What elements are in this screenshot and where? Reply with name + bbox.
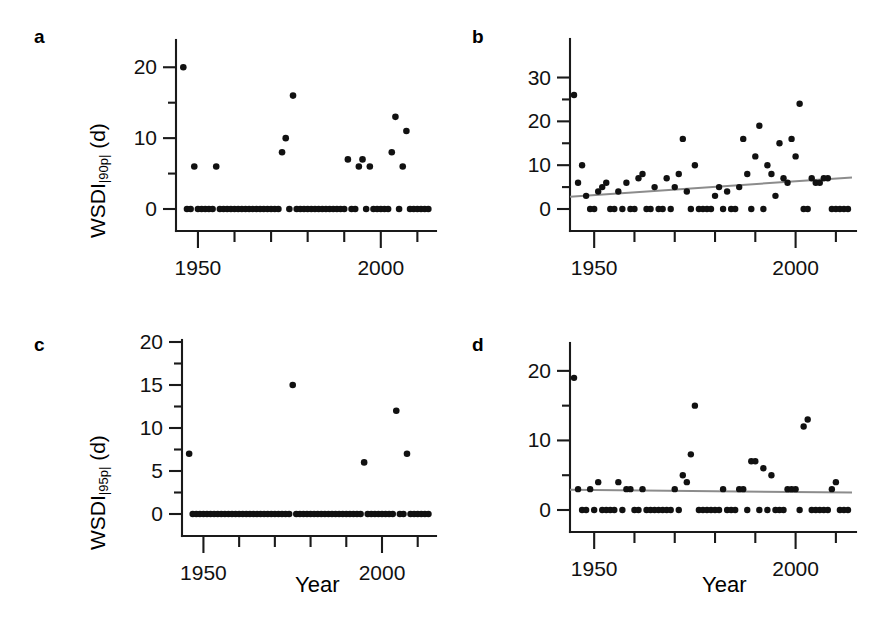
data-point [724, 188, 730, 194]
data-point [635, 507, 641, 513]
data-point [180, 64, 187, 71]
data-point [393, 408, 400, 415]
data-point [788, 136, 794, 142]
data-point [688, 206, 694, 212]
data-point [760, 465, 766, 471]
data-point [619, 206, 625, 212]
data-point [575, 486, 581, 492]
data-point [732, 206, 738, 212]
data-point [425, 206, 432, 213]
data-point [571, 375, 577, 381]
data-point [575, 180, 581, 186]
data-point [615, 188, 621, 194]
x-tick-label-a-2000: 2000 [357, 256, 404, 279]
trendline-d [570, 490, 852, 493]
data-point [579, 162, 585, 168]
data-point [800, 423, 806, 429]
data-point [748, 206, 754, 212]
data-point [396, 206, 403, 213]
data-point [829, 486, 835, 492]
data-point [286, 206, 293, 213]
data-point [619, 507, 625, 513]
data-point [668, 507, 674, 513]
data-point [756, 507, 762, 513]
data-point [389, 511, 396, 518]
panel-d-label: d [472, 335, 484, 354]
data-point [352, 206, 359, 213]
y-tick-label-c-15: 15 [140, 373, 163, 396]
data-point [663, 175, 669, 181]
data-point [356, 163, 363, 170]
y-tick-label-d-20: 20 [528, 359, 551, 382]
data-point [720, 206, 726, 212]
data-point [764, 162, 770, 168]
data-point [688, 451, 694, 457]
data-point [275, 206, 282, 213]
data-point [712, 193, 718, 199]
data-point [388, 149, 395, 156]
data-point [623, 180, 629, 186]
panel-d: d 0102019502000 Year [440, 310, 869, 643]
data-point [744, 507, 750, 513]
y-tick-label-b-0: 0 [539, 197, 551, 220]
data-point [647, 206, 653, 212]
data-point [845, 206, 851, 212]
data-point [804, 206, 810, 212]
data-point [399, 163, 406, 170]
y-tick-label-c-20: 20 [140, 330, 163, 353]
data-point [392, 114, 399, 121]
data-point [603, 180, 609, 186]
data-point [680, 472, 686, 478]
y-tick-label-d-10: 10 [528, 428, 551, 451]
x-tick-label-b-2000: 2000 [772, 256, 819, 279]
data-point [780, 507, 786, 513]
panel-b-plot: 010203019502000 [440, 0, 869, 320]
panel-b: b 010203019502000 [440, 0, 869, 320]
data-point [684, 479, 690, 485]
data-point [587, 486, 593, 492]
x-tick-label-d-2000: 2000 [772, 557, 819, 580]
y-tick-label-b-30: 30 [528, 66, 551, 89]
panel-c: c WSDI|95p| (d) 0510152019502000 Year [0, 310, 440, 643]
data-point [611, 507, 617, 513]
data-point [651, 184, 657, 190]
data-point [425, 511, 432, 518]
y-tick-label-a-20: 20 [134, 55, 157, 78]
data-point [804, 416, 810, 422]
data-point [367, 163, 374, 170]
figure-panel-grid: a WSDI|90p| (d) 0102019502000 b 01020301… [0, 0, 869, 643]
data-point [286, 511, 293, 518]
data-point [191, 163, 198, 170]
data-point [363, 206, 370, 213]
data-point [744, 171, 750, 177]
data-point [583, 507, 589, 513]
ylabel-sub-c: |95p| [96, 467, 111, 495]
data-point [404, 451, 411, 458]
data-point [639, 486, 645, 492]
data-point [611, 206, 617, 212]
data-point [400, 511, 407, 518]
data-point [361, 459, 368, 466]
data-point [845, 507, 851, 513]
data-point [672, 486, 678, 492]
y-tick-label-b-10: 10 [528, 153, 551, 176]
data-point [833, 479, 839, 485]
panel-c-plot: 0510152019502000 [0, 310, 440, 580]
data-point [571, 92, 577, 98]
y-tick-label-c-5: 5 [151, 459, 163, 482]
data-point [186, 451, 193, 458]
data-point [764, 507, 770, 513]
data-point [716, 184, 722, 190]
y-tick-label-a-10: 10 [134, 126, 157, 149]
data-point [768, 171, 774, 177]
data-point [591, 507, 597, 513]
y-tick-label-c-0: 0 [151, 502, 163, 525]
x-tick-label-c-1950: 1950 [180, 561, 227, 584]
panel-d-plot: 0102019502000 [440, 310, 869, 580]
data-point [792, 486, 798, 492]
data-point [792, 153, 798, 159]
data-point [289, 382, 296, 389]
data-point [752, 458, 758, 464]
data-point [760, 206, 766, 212]
data-point [639, 171, 645, 177]
